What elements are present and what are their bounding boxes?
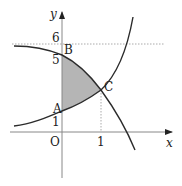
- origin-label: O: [50, 135, 60, 149]
- point-b-label: B: [64, 43, 73, 57]
- y-axis-label: y: [49, 7, 57, 21]
- y-tick-1: 1: [52, 115, 60, 129]
- x-tick-1: 1: [97, 135, 105, 149]
- x-axis-label: x: [166, 136, 173, 150]
- point-a-label: A: [52, 102, 62, 116]
- y-tick-6: 6: [52, 31, 60, 45]
- diagram: y x O 6 5 1 1 B A C: [0, 0, 182, 186]
- y-tick-5: 5: [52, 53, 60, 67]
- point-c-label: C: [104, 80, 113, 94]
